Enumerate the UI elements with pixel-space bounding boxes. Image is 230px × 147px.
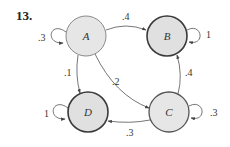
node-label-b: B [164,30,171,42]
edge-c-d [108,120,150,122]
edge-label-a-c: .2 [112,76,120,87]
edge-label-c-d: .3 [126,127,134,138]
edge-label-a-d: .1 [64,67,72,78]
node-label-d: D [83,106,92,118]
edge-a-b [106,26,146,30]
node-label-a: A [82,30,90,42]
self-loop-a [51,29,66,43]
edge-label-d-d: 1 [44,108,49,119]
edge-label-a-a: .3 [38,32,46,43]
edge-a-d [77,55,80,93]
markov-chain-diagram: ABCD .4 .1 .2 .4 .3 .3 1 .3 1 [0,0,230,147]
edge-label-a-b: .4 [122,11,130,22]
edge-label-c-c: .3 [210,107,218,118]
self-loop-d [53,105,68,119]
self-loop-b [187,28,200,42]
edge-label-c-b: .4 [185,67,193,78]
edge-label-b-b: 1 [206,29,211,40]
self-loop-c [189,104,202,118]
edge-c-b [177,55,180,94]
node-label-c: C [165,106,173,118]
